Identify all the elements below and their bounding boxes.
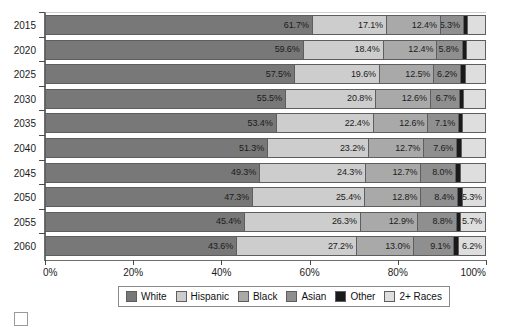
bar-value-label: 12.6% <box>399 119 427 128</box>
bar-value-label: 51.3% <box>239 144 267 153</box>
x-axis-tick <box>398 260 399 265</box>
bar-segment-hispanic: 17.1% <box>313 15 387 35</box>
legend-label: Other <box>350 292 375 302</box>
bar-segment-asian: 8.0% <box>421 163 456 183</box>
bar-segment-white: 53.4% <box>45 113 277 133</box>
bar-value-label: 12.7% <box>392 168 420 177</box>
y-axis-tick <box>39 160 45 161</box>
bar-value-label: 7.6% <box>433 144 456 153</box>
bar-segment-hispanic: 24.3% <box>260 163 366 183</box>
bar-value-label: 8.8% <box>432 217 455 226</box>
bar-segment-2-races <box>468 15 486 35</box>
bar-row: 49.3%24.3%12.7%8.0% <box>45 163 486 183</box>
bar-value-label: 12.5% <box>405 70 433 79</box>
bar-segment-white: 45.4% <box>45 212 245 232</box>
x-axis-label-20: 20% <box>123 268 143 278</box>
bar-value-label: 19.6% <box>351 70 379 79</box>
bar-value-label: 55.5% <box>257 94 285 103</box>
bar-segment-white: 49.3% <box>45 163 260 183</box>
legend-swatch-icon <box>126 291 137 302</box>
legend-swatch-icon <box>238 291 249 302</box>
bar-value-label: 5.3% <box>441 21 463 30</box>
bar-value-label: 12.6% <box>402 94 430 103</box>
bar-segment-asian: 7.1% <box>428 113 459 133</box>
bar-value-label: 12.7% <box>395 144 423 153</box>
legend-item-asian[interactable]: Asian <box>286 291 326 302</box>
bar-segment-2-races <box>463 113 486 133</box>
y-axis-label-2020: 2020 <box>0 46 36 56</box>
bar-value-label: 6.7% <box>436 94 459 103</box>
bar-segment-asian: 9.1% <box>414 236 454 256</box>
legend-label: Hispanic <box>191 292 229 302</box>
bar-segment-black: 13.0% <box>357 236 414 256</box>
bar-segment-2-races <box>464 89 486 109</box>
x-axis-label-100: 100% <box>460 268 486 278</box>
legend-item-hispanic[interactable]: Hispanic <box>176 291 229 302</box>
legend-item-other[interactable]: Other <box>335 291 375 302</box>
x-axis-tick <box>221 260 222 265</box>
bar-segment-hispanic: 26.3% <box>245 212 361 232</box>
bar-segment-white: 43.6% <box>45 236 237 256</box>
bar-row: 55.5%20.8%12.6%6.7% <box>45 89 486 109</box>
bar-row: 45.4%26.3%12.9%8.8%5.7% <box>45 212 486 232</box>
bar-segment-black: 12.6% <box>376 89 431 109</box>
bar-segment-asian: 8.8% <box>418 212 457 232</box>
bar-segment-hispanic: 25.4% <box>253 187 365 207</box>
y-axis-label-2045: 2045 <box>0 169 36 179</box>
bar-value-label: 13.0% <box>385 242 413 251</box>
y-axis-tick <box>39 37 45 38</box>
y-axis-label-2040: 2040 <box>0 144 36 154</box>
legend-label: White <box>141 292 167 302</box>
y-axis-label-2015: 2015 <box>0 21 36 31</box>
bar-value-label: 8.0% <box>432 168 455 177</box>
bar-segment-asian: 6.7% <box>431 89 460 109</box>
y-axis-tick <box>39 233 45 234</box>
y-axis-label-2050: 2050 <box>0 193 36 203</box>
bar-segment-asian: 7.6% <box>424 138 457 158</box>
bar-value-label: 12.8% <box>392 193 420 202</box>
legend-item-black[interactable]: Black <box>238 291 277 302</box>
bar-segment-black: 12.4% <box>384 40 438 60</box>
y-axis-tick <box>39 12 45 13</box>
bar-value-label: 26.3% <box>332 217 360 226</box>
y-axis-tick <box>39 110 45 111</box>
bar-row: 47.3%25.4%12.8%8.4%5.3% <box>45 187 486 207</box>
y-axis-label-2030: 2030 <box>0 95 36 105</box>
bar-segment-white: 59.6% <box>45 40 304 60</box>
bar-value-label: 53.4% <box>248 119 276 128</box>
bar-value-label: 5.8% <box>438 45 461 54</box>
clipped-checkbox-artifact <box>14 312 28 326</box>
x-axis-tick <box>486 260 487 265</box>
bar-segment-black: 12.5% <box>380 64 434 84</box>
y-axis-label-2060: 2060 <box>0 242 36 252</box>
bar-value-label: 18.4% <box>355 45 383 54</box>
y-axis-tick <box>39 86 45 87</box>
bar-value-label: 20.8% <box>347 94 375 103</box>
bar-value-label: 57.5% <box>266 70 294 79</box>
y-axis-tick <box>39 184 45 185</box>
bar-segment-black: 12.9% <box>361 212 418 232</box>
bar-value-label: 12.4% <box>408 45 436 54</box>
x-axis-tick <box>133 260 134 265</box>
bar-value-label: 12.9% <box>389 217 417 226</box>
legend-item-white[interactable]: White <box>126 291 167 302</box>
bar-value-label: 45.4% <box>216 217 244 226</box>
bar-value-label: 61.7% <box>284 21 312 30</box>
bar-segment-2-races <box>462 138 486 158</box>
y-axis-tick <box>39 61 45 62</box>
bar-value-label: 5.7% <box>462 217 485 226</box>
y-axis-tick <box>39 209 45 210</box>
bar-value-label: 49.3% <box>231 168 259 177</box>
bar-segment-white: 61.7% <box>45 15 313 35</box>
bar-value-label: 12.4% <box>412 21 440 30</box>
bar-segment-hispanic: 27.2% <box>237 236 357 256</box>
y-axis-label-2055: 2055 <box>0 218 36 228</box>
bar-segment-hispanic: 18.4% <box>304 40 384 60</box>
bar-row: 57.5%19.6%12.5%6.2% <box>45 64 486 84</box>
legend-item-2-races[interactable]: 2+ Races <box>384 291 442 302</box>
x-axis-label-60: 60% <box>300 268 320 278</box>
bar-value-label: 22.4% <box>345 119 373 128</box>
bar-segment-asian: 8.4% <box>421 187 458 207</box>
x-axis-label-0: 0% <box>43 268 57 278</box>
